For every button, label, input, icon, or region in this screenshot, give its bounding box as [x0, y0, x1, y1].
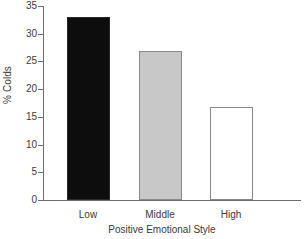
- y-tick-mark: [38, 34, 43, 35]
- y-tick-label: 35: [3, 1, 37, 11]
- y-tick-mark: [38, 172, 43, 173]
- plot-area: 05101520253035 LowMiddleHigh: [43, 6, 301, 201]
- y-tick-mark: [38, 61, 43, 62]
- y-tick-label: 10: [3, 140, 37, 150]
- bar-high: [210, 107, 253, 200]
- y-tick-mark: [38, 200, 43, 201]
- y-tick-label: 15: [3, 112, 37, 122]
- y-tick-label: 0: [3, 195, 37, 205]
- x-tick-label-middle: Middle: [120, 209, 200, 220]
- y-tick-mark: [38, 6, 43, 7]
- bar-low: [67, 17, 110, 200]
- y-tick-label: 5: [3, 167, 37, 177]
- x-tick-label-high: High: [191, 209, 271, 220]
- y-tick-label: 20: [3, 84, 37, 94]
- bar-chart-figure: % Colds 05101520253035 LowMiddleHigh Pos…: [0, 0, 307, 239]
- y-tick-mark: [38, 117, 43, 118]
- x-axis-line: [43, 200, 301, 201]
- x-axis-title: Positive Emotional Style: [43, 224, 281, 235]
- bar-middle: [139, 51, 182, 200]
- y-axis-line: [43, 6, 44, 201]
- y-tick-mark: [38, 89, 43, 90]
- x-tick-label-low: Low: [48, 209, 128, 220]
- y-tick-label: 25: [3, 56, 37, 66]
- y-tick-mark: [38, 145, 43, 146]
- y-tick-label: 30: [3, 29, 37, 39]
